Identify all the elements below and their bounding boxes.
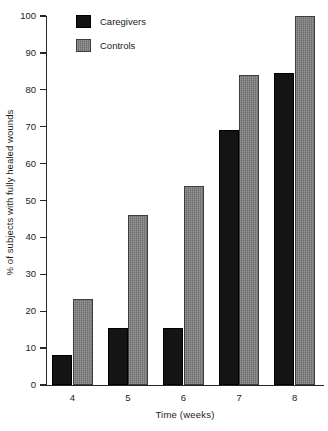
y-tick-label: 30 xyxy=(2,269,36,279)
y-tick-label: 10 xyxy=(2,343,36,353)
chart-legend: CaregiversControls xyxy=(76,14,146,62)
x-tick-label: 7 xyxy=(219,392,259,403)
legend-item-controls: Controls xyxy=(76,38,146,52)
bar-caregivers-week-5 xyxy=(108,328,128,385)
bar-controls-week-7 xyxy=(239,75,259,385)
x-tick-label: 5 xyxy=(108,392,148,403)
plot-area xyxy=(46,16,324,385)
legend-item-caregivers: Caregivers xyxy=(76,14,146,28)
bar-caregivers-week-7 xyxy=(219,130,239,385)
bar-caregivers-week-6 xyxy=(163,328,183,385)
y-tick-label: 50 xyxy=(2,196,36,206)
bar-controls-week-5 xyxy=(128,215,148,385)
legend-swatch-caregivers xyxy=(76,15,91,28)
y-tick-label: 90 xyxy=(2,48,36,58)
y-tick-label: 60 xyxy=(2,159,36,169)
legend-swatch-controls xyxy=(76,39,91,52)
x-axis-label: Time (weeks) xyxy=(46,409,324,420)
y-tick-label: 0 xyxy=(2,380,36,390)
y-tick-label: 80 xyxy=(2,85,36,95)
bar-caregivers-week-4 xyxy=(52,355,72,385)
x-tick-label: 4 xyxy=(52,392,92,403)
y-tick-label: 20 xyxy=(2,306,36,316)
x-tick-label: 8 xyxy=(275,392,315,403)
legend-label-controls: Controls xyxy=(100,40,135,51)
bar-caregivers-week-8 xyxy=(274,73,294,385)
y-tick-label: 100 xyxy=(2,11,36,21)
bar-chart-figure: % of subjects with fully healed wounds 0… xyxy=(0,0,328,431)
y-tick-label: 70 xyxy=(2,122,36,132)
bar-controls-week-4 xyxy=(73,299,93,385)
bar-controls-week-6 xyxy=(184,186,204,385)
bar-controls-week-8 xyxy=(295,16,315,385)
y-tick-label: 40 xyxy=(2,232,36,242)
x-tick-label: 6 xyxy=(164,392,204,403)
x-axis-line xyxy=(46,385,324,386)
legend-label-caregivers: Caregivers xyxy=(100,16,146,27)
